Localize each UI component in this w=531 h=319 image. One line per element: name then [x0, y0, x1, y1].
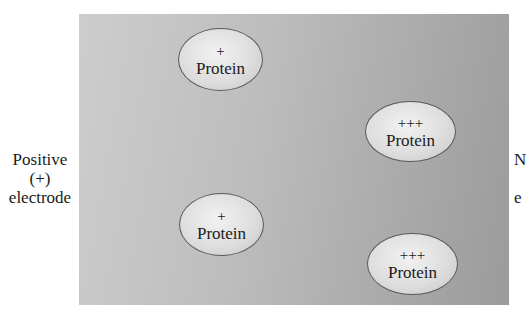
- electrode-sign: [514, 169, 531, 188]
- protein-label: Protein: [197, 225, 246, 242]
- electrode-name: Positive: [0, 150, 80, 169]
- electrode-word: electrode: [0, 188, 80, 207]
- electrode-sign: (+): [0, 169, 80, 188]
- charge-label: +++: [398, 115, 423, 132]
- protein-single-charge-bottom: + Protein: [179, 193, 264, 256]
- charge-label: +: [217, 208, 225, 225]
- positive-electrode-label: Positive (+) electrode: [0, 150, 80, 207]
- protein-triple-charge-bottom: +++ Protein: [367, 233, 458, 295]
- protein-single-charge-top: + Protein: [178, 28, 263, 91]
- protein-triple-charge-top: +++ Protein: [365, 101, 456, 162]
- protein-label: Protein: [386, 132, 435, 149]
- electrode-name: N: [514, 150, 531, 169]
- protein-label: Protein: [388, 264, 437, 281]
- negative-electrode-label: N e: [514, 150, 531, 207]
- protein-label: Protein: [196, 60, 245, 77]
- charge-label: +++: [400, 247, 425, 264]
- charge-label: +: [216, 43, 224, 60]
- electrode-word: e: [514, 188, 531, 207]
